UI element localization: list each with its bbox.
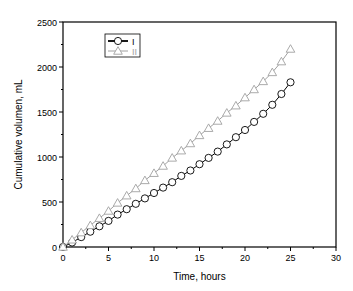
triangle-marker bbox=[113, 199, 122, 207]
triangle-marker bbox=[150, 169, 159, 177]
circle-marker bbox=[214, 148, 221, 155]
triangle-marker bbox=[277, 57, 286, 65]
legend-label: I bbox=[132, 37, 135, 47]
y-axis-label: Cumulative volumen, mL bbox=[13, 79, 24, 189]
legend-label: II bbox=[132, 47, 137, 57]
circle-marker bbox=[141, 195, 148, 202]
x-tick-label: 25 bbox=[285, 253, 295, 263]
circle-marker bbox=[160, 184, 167, 191]
triangle-marker bbox=[141, 176, 150, 184]
series-i bbox=[59, 79, 294, 251]
triangle-marker bbox=[204, 124, 213, 132]
circle-marker bbox=[241, 126, 248, 133]
circle-marker bbox=[87, 228, 94, 235]
circle-marker bbox=[105, 217, 112, 224]
triangle-marker bbox=[77, 228, 86, 236]
x-axis-label: Time, hours bbox=[173, 271, 225, 282]
circle-marker bbox=[205, 154, 212, 161]
triangle-marker bbox=[68, 236, 77, 244]
y-tick-label: 0 bbox=[52, 243, 57, 253]
x-tick-label: 15 bbox=[194, 253, 204, 263]
legend: III bbox=[105, 34, 140, 57]
x-tick-label: 10 bbox=[149, 253, 159, 263]
triangle-marker bbox=[122, 191, 131, 199]
circle-marker bbox=[96, 223, 103, 230]
circle-marker bbox=[260, 110, 267, 117]
y-tick-label: 1000 bbox=[37, 153, 57, 163]
circle-marker bbox=[187, 167, 194, 174]
triangle-marker bbox=[177, 146, 186, 154]
circle-marker bbox=[269, 101, 276, 108]
x-tick-label: 5 bbox=[106, 253, 111, 263]
triangle-marker bbox=[286, 45, 295, 53]
y-tick-label: 1500 bbox=[37, 108, 57, 118]
circle-marker bbox=[223, 141, 230, 148]
triangle-marker bbox=[86, 221, 95, 229]
circle-marker bbox=[169, 179, 176, 186]
circle-marker bbox=[114, 211, 121, 218]
x-tick-label: 30 bbox=[331, 253, 341, 263]
circle-marker bbox=[132, 200, 139, 207]
circle-marker bbox=[123, 206, 130, 213]
circle-marker bbox=[178, 172, 185, 179]
x-tick-label: 20 bbox=[240, 253, 250, 263]
triangle-marker bbox=[95, 214, 104, 222]
y-tick-label: 2500 bbox=[37, 18, 57, 28]
triangle-marker bbox=[223, 109, 232, 117]
triangle-marker bbox=[195, 131, 204, 139]
chart: 05001000150020002500051015202530Time, ho… bbox=[0, 0, 353, 291]
series-ii bbox=[59, 45, 295, 251]
series-line bbox=[63, 82, 291, 247]
circle-marker bbox=[114, 37, 121, 44]
circle-marker bbox=[251, 118, 258, 125]
circle-marker bbox=[232, 134, 239, 141]
circle-marker bbox=[278, 90, 285, 97]
x-tick-label: 0 bbox=[60, 253, 65, 263]
y-tick-label: 500 bbox=[42, 198, 57, 208]
triangle-marker bbox=[168, 154, 177, 162]
circle-marker bbox=[287, 79, 294, 86]
circle-marker bbox=[196, 161, 203, 168]
y-tick-label: 2000 bbox=[37, 63, 57, 73]
circle-marker bbox=[150, 189, 157, 196]
